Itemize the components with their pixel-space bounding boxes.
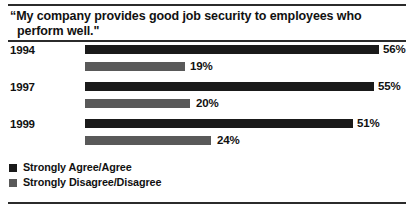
plot-area: 1994 56% 19% 1997 55% 20% 1999 (0, 44, 414, 156)
bar-group-1994: 1994 56% 19% (0, 44, 414, 76)
bar-group-1999: 1999 51% 24% (0, 118, 414, 150)
bar-value-1997-agree: 55% (378, 80, 400, 92)
category-label-1997: 1997 (10, 81, 35, 93)
chart-legend: Strongly Agree/Agree Strongly Disagree/D… (9, 161, 289, 191)
bottom-rule (8, 202, 406, 204)
bar-1999-agree (85, 119, 353, 128)
legend-label-agree: Strongly Agree/Agree (23, 161, 132, 174)
bar-value-1999-agree: 51% (357, 117, 379, 129)
bar-1999-disagree (85, 136, 211, 145)
legend-swatch-disagree-icon (9, 179, 17, 187)
top-rule (8, 4, 406, 6)
category-label-1994: 1994 (10, 44, 35, 56)
legend-swatch-agree-icon (9, 164, 17, 172)
bar-1994-agree (85, 45, 379, 54)
legend-label-disagree: Strongly Disagree/Disagree (23, 176, 161, 189)
bar-value-1997-disagree: 20% (196, 97, 218, 109)
category-label-1999: 1999 (10, 118, 35, 130)
legend-item-agree: Strongly Agree/Agree (9, 161, 289, 174)
chart-title-line-2: perform well." (10, 24, 402, 39)
chart-figure: “My company provides good job security t… (0, 0, 414, 214)
bar-value-1999-disagree: 24% (217, 134, 239, 146)
legend-item-disagree: Strongly Disagree/Disagree (9, 176, 289, 189)
bar-group-1997: 1997 55% 20% (0, 81, 414, 113)
bar-value-1994-agree: 56% (383, 43, 405, 55)
bar-1994-disagree (85, 62, 185, 71)
bar-1997-agree (85, 82, 374, 91)
chart-title-line-1: “My company provides good job security t… (10, 9, 362, 23)
title-separator-rule (8, 40, 406, 42)
bar-value-1994-disagree: 19% (190, 60, 212, 72)
chart-title: “My company provides good job security t… (10, 9, 402, 38)
bar-1997-disagree (85, 99, 190, 108)
